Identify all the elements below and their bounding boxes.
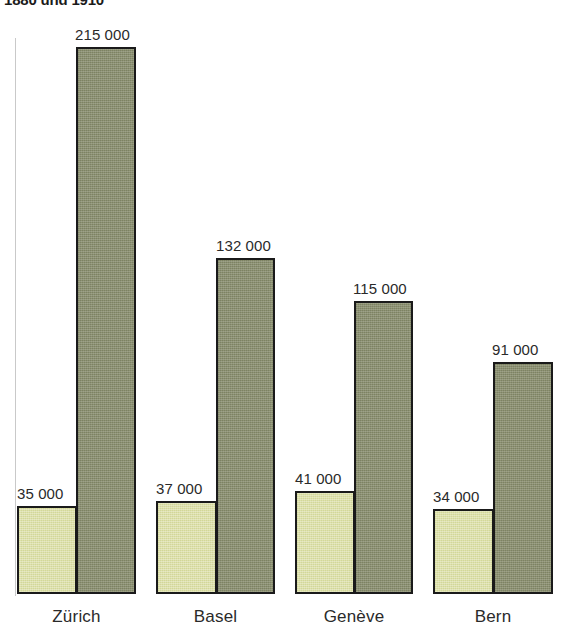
value-label-bern-1880: 34 000 — [433, 488, 479, 505]
value-label-basel-1910: 132 000 — [216, 237, 271, 254]
bar-geneve-1880 — [295, 491, 355, 594]
population-bar-chart-figure: 1880 und 1910 35 000 215 000 Zürich 37 0… — [0, 0, 568, 644]
value-label-zurich-1910: 215 000 — [75, 26, 130, 43]
category-label-zurich: Zürich — [17, 607, 136, 627]
bar-zurich-1910 — [76, 47, 136, 594]
bar-geneve-1910 — [354, 301, 413, 594]
category-label-basel: Basel — [156, 607, 275, 627]
category-label-bern: Bern — [433, 607, 553, 627]
bar-zurich-1880 — [17, 506, 77, 594]
value-label-geneve-1910: 115 000 — [353, 280, 407, 297]
category-label-geneve: Genève — [295, 607, 413, 627]
value-label-zurich-1880: 35 000 — [17, 485, 63, 502]
bar-bern-1880 — [433, 509, 494, 594]
bar-basel-1880 — [156, 501, 217, 594]
value-label-basel-1880: 37 000 — [156, 480, 202, 497]
bar-bern-1910 — [493, 362, 553, 594]
bar-basel-1910 — [216, 258, 275, 594]
value-label-bern-1910: 91 000 — [492, 341, 538, 358]
y-axis-line — [15, 38, 16, 596]
value-label-geneve-1880: 41 000 — [295, 470, 341, 487]
plot-area: 35 000 215 000 Zürich 37 000 132 000 Bas… — [0, 0, 568, 644]
